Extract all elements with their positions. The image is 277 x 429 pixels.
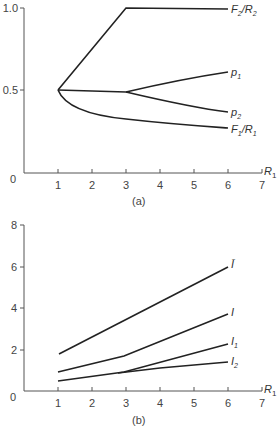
y-tick-label: 6 [11, 261, 17, 273]
x-tick-label: 6 [225, 397, 231, 409]
x-tick-label: 2 [89, 179, 95, 191]
series-label-f1r1: F1/R1 [231, 123, 257, 137]
x-tick-label: 6 [225, 179, 231, 191]
y-tick-label: 1.0 [3, 2, 18, 14]
series-label-i1: I1 [231, 335, 238, 349]
panel-a: 1.0 0.5 0 1 2 3 4 5 6 7 R1 (a) F2/R2 p1 … [3, 2, 277, 207]
x-axis-label: R1 [264, 165, 277, 180]
panel-b: 8 6 4 2 0 1 2 3 4 5 6 7 R1 (b) Ī I I1 I2 [10, 219, 277, 426]
origin-label: 0 [10, 391, 16, 403]
x-tick-label: 1 [55, 397, 61, 409]
y-tick-label: 8 [11, 219, 17, 231]
x-tick-label: 2 [89, 397, 95, 409]
figure: 1.0 0.5 0 1 2 3 4 5 6 7 R1 (a) F2/R2 p1 … [0, 0, 277, 429]
x-tick-label: 4 [157, 179, 163, 191]
y-tick-label: 0.5 [3, 84, 18, 96]
series-i-line [58, 314, 228, 372]
series-label-p1: p1 [230, 66, 241, 80]
x-tick-label: 4 [157, 397, 163, 409]
x-ticks [58, 169, 262, 173]
y-tick-label: 2 [11, 344, 17, 356]
x-tick-label: 5 [191, 179, 197, 191]
x-tick-label: 7 [259, 397, 265, 409]
x-ticks [58, 387, 262, 391]
x-tick-label: 3 [123, 179, 129, 191]
series-i2-line [118, 362, 228, 373]
series-label-f2r2: F2/R2 [231, 3, 257, 17]
x-tick-label: 7 [259, 179, 265, 191]
series-f2r2-line [58, 8, 228, 90]
y-tick-label: 4 [11, 302, 17, 314]
series-ibar-line [59, 267, 228, 354]
series-label-i2: I2 [231, 355, 238, 369]
series-label-p2: p2 [230, 106, 241, 120]
series-i1-line [58, 344, 228, 381]
origin-label: 0 [10, 173, 16, 185]
panel-caption: (b) [132, 414, 145, 426]
series-p2-line [126, 92, 228, 112]
x-tick-label: 3 [123, 397, 129, 409]
x-axis-label: R1 [264, 383, 277, 398]
series-p1-line [58, 72, 228, 92]
series-label-i: I [231, 306, 234, 318]
x-tick-label: 5 [191, 397, 197, 409]
x-tick-label: 1 [55, 179, 61, 191]
panel-caption: (a) [132, 195, 145, 207]
series-label-ibar: Ī [231, 258, 236, 270]
